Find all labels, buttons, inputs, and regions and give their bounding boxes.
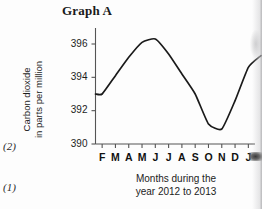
scanned-page: Graph A (2) (1) Carbon dioxide in parts … [0,0,262,209]
x-axis-title: Months during the year 2012 to 2013 [98,172,254,198]
x-axis-title-line-2: year 2012 to 2013 [98,185,254,198]
carbon-dioxide-line [96,39,262,130]
chart-axes [92,28,256,148]
x-axis-title-line-1: Months during the [98,172,254,185]
